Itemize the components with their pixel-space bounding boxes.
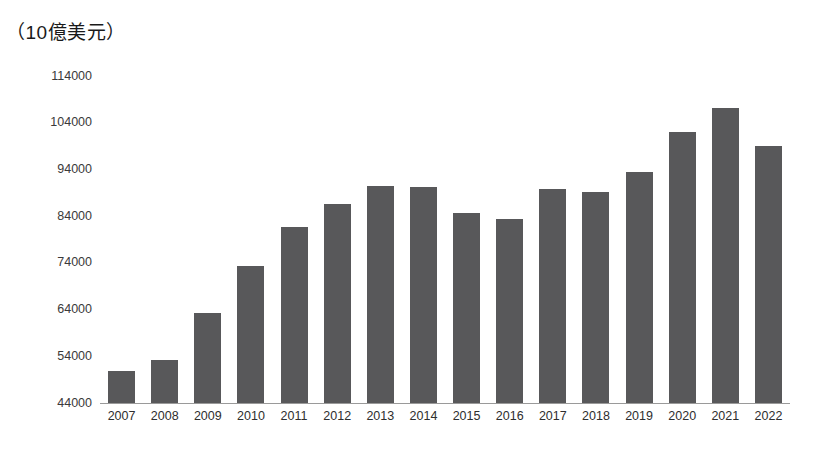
x-axis-tick-label: 2011 bbox=[273, 407, 316, 425]
x-axis-tick-label: 2019 bbox=[618, 407, 661, 425]
x-axis-tick-label: 2010 bbox=[229, 407, 272, 425]
x-axis-line bbox=[100, 403, 790, 404]
x-axis-tick-label: 2017 bbox=[531, 407, 574, 425]
bar[interactable] bbox=[367, 186, 394, 403]
bar[interactable] bbox=[410, 187, 437, 403]
bar[interactable] bbox=[626, 172, 653, 403]
bar-column bbox=[531, 76, 574, 403]
bar[interactable] bbox=[237, 266, 264, 403]
y-axis-tick-label: 104000 bbox=[6, 116, 92, 129]
bar-column bbox=[574, 76, 617, 403]
bar[interactable] bbox=[151, 360, 178, 403]
bar[interactable] bbox=[755, 146, 782, 403]
bar[interactable] bbox=[324, 204, 351, 403]
bar-column bbox=[704, 76, 747, 403]
bar-column bbox=[316, 76, 359, 403]
x-axis-tick-label: 2009 bbox=[186, 407, 229, 425]
bar-column bbox=[661, 76, 704, 403]
bar[interactable] bbox=[582, 192, 609, 403]
y-axis: 4400054000640007400084000940001040001140… bbox=[0, 0, 92, 453]
bar-column bbox=[100, 76, 143, 403]
bar-column bbox=[445, 76, 488, 403]
bar-chart: （10億美元） 44000540006400074000840009400010… bbox=[0, 0, 818, 453]
bar-column bbox=[488, 76, 531, 403]
bar-column bbox=[186, 76, 229, 403]
x-axis-tick-label: 2015 bbox=[445, 407, 488, 425]
x-axis-tick-label: 2016 bbox=[488, 407, 531, 425]
y-axis-tick-label: 114000 bbox=[6, 70, 92, 83]
y-axis-tick-label: 74000 bbox=[6, 256, 92, 269]
bar-column bbox=[618, 76, 661, 403]
bar[interactable] bbox=[539, 189, 566, 403]
bar[interactable] bbox=[108, 371, 135, 403]
bar[interactable] bbox=[712, 108, 739, 403]
bar-column bbox=[143, 76, 186, 403]
x-axis: 2007200820092010201120122013201420152016… bbox=[100, 407, 790, 429]
x-axis-tick-label: 2012 bbox=[316, 407, 359, 425]
bar-column bbox=[273, 76, 316, 403]
plot-area bbox=[100, 76, 790, 403]
bar[interactable] bbox=[453, 213, 480, 403]
x-axis-tick-label: 2013 bbox=[359, 407, 402, 425]
bar[interactable] bbox=[281, 227, 308, 403]
bar[interactable] bbox=[496, 219, 523, 403]
bar-column bbox=[359, 76, 402, 403]
bar-column bbox=[747, 76, 790, 403]
y-axis-tick-label: 44000 bbox=[6, 397, 92, 410]
bar[interactable] bbox=[194, 313, 221, 403]
x-axis-tick-label: 2018 bbox=[574, 407, 617, 425]
y-axis-tick-label: 94000 bbox=[6, 163, 92, 176]
bar-column bbox=[229, 76, 272, 403]
x-axis-tick-label: 2007 bbox=[100, 407, 143, 425]
x-axis-tick-label: 2008 bbox=[143, 407, 186, 425]
bar-column bbox=[402, 76, 445, 403]
x-axis-tick-label: 2022 bbox=[747, 407, 790, 425]
y-axis-tick-label: 84000 bbox=[6, 210, 92, 223]
y-axis-tick-label: 54000 bbox=[6, 350, 92, 363]
bar[interactable] bbox=[669, 132, 696, 403]
x-axis-tick-label: 2020 bbox=[661, 407, 704, 425]
x-axis-tick-label: 2014 bbox=[402, 407, 445, 425]
y-axis-tick-label: 64000 bbox=[6, 303, 92, 316]
x-axis-tick-label: 2021 bbox=[704, 407, 747, 425]
